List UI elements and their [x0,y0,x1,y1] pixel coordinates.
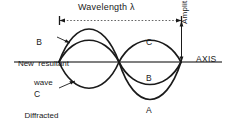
diffracted-wave-annotation: C Diffracted wave [4,72,70,120]
wave-diagram-figure: Wavelength λ Amplitude AXIS B New result… [0,0,225,120]
wavelength-label: Wavelength λ [78,2,135,12]
curve-b-label: B [146,74,152,84]
resultant-wave-tag: B [6,38,72,48]
curve-a-label: A [146,106,152,116]
amplitude-label: Amplitude [180,0,189,24]
curve-c-label: C [146,38,152,48]
resultant-wave-line1: New resultant [18,59,69,68]
diffracted-wave-tag: C [4,90,70,100]
diffracted-wave-line1: Diffracted [24,111,58,120]
axis-label: AXIS [196,55,217,65]
